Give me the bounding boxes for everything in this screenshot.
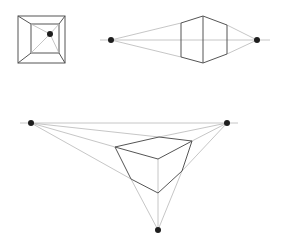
guide-line [131, 179, 158, 230]
guide-line [227, 40, 257, 54]
guide-line [111, 23, 181, 40]
corner-connector [59, 16, 65, 24]
two-point-perspective-panel [100, 16, 270, 63]
perspective-diagram [0, 0, 286, 242]
guide-line [182, 123, 227, 171]
vanishing-point-bottom [155, 227, 161, 233]
guide-line [227, 25, 257, 40]
three-point-perspective-panel [20, 120, 238, 233]
top-face [115, 137, 192, 159]
corner-connector [18, 16, 31, 24]
guide-line [31, 24, 50, 34]
vanishing-point-left [28, 120, 34, 126]
outer-square [18, 16, 65, 63]
guide-line [50, 34, 59, 53]
vanishing-point [47, 31, 53, 37]
guide-line [31, 123, 131, 179]
guide-line [31, 123, 159, 137]
one-point-perspective-panel [18, 16, 65, 63]
guide-line [158, 171, 182, 230]
guide-line [159, 123, 227, 137]
guide-line [31, 123, 115, 147]
vanishing-point-right [254, 37, 260, 43]
vanishing-point-left [108, 37, 114, 43]
vanishing-point-right [224, 120, 230, 126]
bottom-edges [181, 54, 227, 63]
guide-line [192, 123, 227, 141]
corner-connector [59, 53, 65, 63]
top-edges [181, 16, 227, 25]
corner-connector [18, 53, 31, 63]
guide-line [31, 34, 50, 53]
guide-line [111, 40, 181, 57]
